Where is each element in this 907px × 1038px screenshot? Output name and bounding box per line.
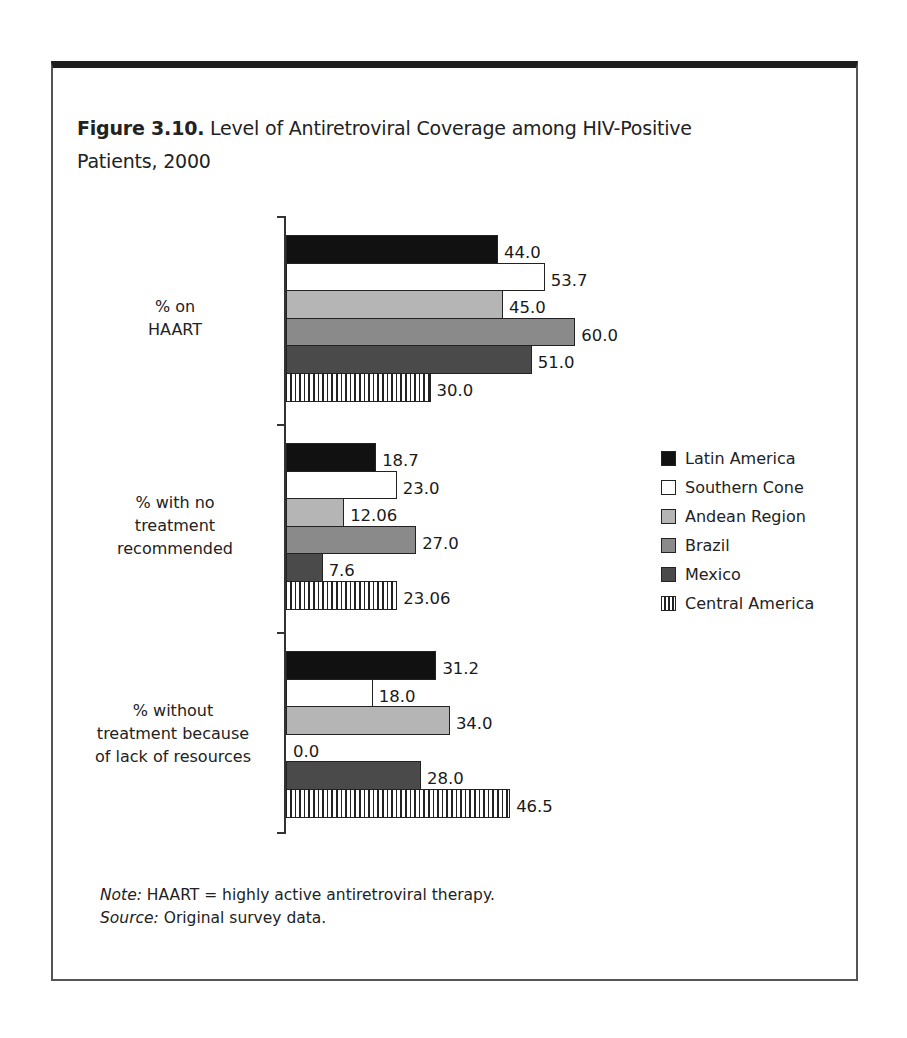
bar-southern-cone bbox=[286, 679, 373, 708]
figure-title-line2: Patients, 2000 bbox=[77, 150, 211, 172]
bar-central-america bbox=[286, 373, 431, 402]
category-label-line: recommended bbox=[80, 537, 270, 560]
data-label: 23.0 bbox=[403, 479, 440, 499]
legend-label: Brazil bbox=[685, 536, 730, 555]
bar-brazil bbox=[286, 526, 416, 555]
source-text: Original survey data. bbox=[159, 909, 326, 927]
legend-swatch-icon bbox=[661, 509, 676, 524]
category-label: % with notreatmentrecommended bbox=[80, 491, 270, 560]
source-label: Source: bbox=[100, 909, 159, 927]
data-label: 0.0 bbox=[293, 742, 319, 762]
data-label: 45.0 bbox=[509, 298, 546, 318]
bar-latin-america bbox=[286, 651, 436, 680]
data-label: 31.2 bbox=[442, 659, 479, 679]
category-label: % onHAART bbox=[80, 295, 270, 341]
legend-label: Central America bbox=[685, 594, 814, 613]
data-label: 34.0 bbox=[456, 714, 493, 734]
legend-item: Latin America bbox=[661, 444, 814, 473]
bar-latin-america bbox=[286, 443, 376, 472]
data-label: 44.0 bbox=[504, 243, 541, 263]
legend: Latin AmericaSouthern ConeAndean RegionB… bbox=[661, 444, 814, 618]
category-label-line: HAART bbox=[80, 318, 270, 341]
data-label: 18.0 bbox=[379, 687, 416, 707]
legend-item: Brazil bbox=[661, 531, 814, 560]
bar-andean-region bbox=[286, 706, 450, 735]
legend-swatch-icon bbox=[661, 596, 676, 611]
bar-central-america bbox=[286, 789, 510, 818]
note-label: Note: bbox=[100, 886, 142, 904]
axis-tick bbox=[277, 424, 285, 426]
data-label: 18.7 bbox=[382, 451, 419, 471]
legend-item: Andean Region bbox=[661, 502, 814, 531]
legend-item: Mexico bbox=[661, 560, 814, 589]
bar-southern-cone bbox=[286, 471, 397, 500]
data-label: 51.0 bbox=[538, 353, 575, 373]
category-label-line: % on bbox=[80, 295, 270, 318]
legend-swatch-icon bbox=[661, 451, 676, 466]
figure-note: Note: HAART = highly active antiretrovir… bbox=[100, 884, 495, 930]
data-label: 27.0 bbox=[422, 534, 459, 554]
data-label: 12.06 bbox=[350, 506, 397, 526]
axis-tick bbox=[277, 632, 285, 634]
legend-swatch-icon bbox=[661, 538, 676, 553]
legend-item: Southern Cone bbox=[661, 473, 814, 502]
bar-mexico bbox=[286, 345, 532, 374]
figure-number: Figure 3.10. bbox=[77, 117, 204, 139]
figure-title-text: Level of Antiretroviral Coverage among H… bbox=[204, 117, 692, 139]
legend-label: Mexico bbox=[685, 565, 741, 584]
data-label: 23.06 bbox=[403, 589, 450, 609]
bar-central-america bbox=[286, 581, 397, 610]
axis-tick bbox=[277, 216, 285, 218]
data-label: 46.5 bbox=[516, 797, 553, 817]
legend-label: Latin America bbox=[685, 449, 796, 468]
data-label: 60.0 bbox=[581, 326, 618, 346]
figure-title: Figure 3.10. Level of Antiretroviral Cov… bbox=[77, 112, 797, 178]
category-label: % withouttreatment becauseof lack of res… bbox=[78, 699, 268, 768]
bar-brazil bbox=[286, 318, 575, 347]
data-label: 7.6 bbox=[329, 561, 355, 581]
bar-mexico bbox=[286, 761, 421, 790]
category-label-line: treatment because bbox=[78, 722, 268, 745]
bar-andean-region bbox=[286, 498, 344, 527]
legend-label: Southern Cone bbox=[685, 478, 804, 497]
legend-label: Andean Region bbox=[685, 507, 806, 526]
bar-latin-america bbox=[286, 235, 498, 264]
data-label: 53.7 bbox=[551, 271, 588, 291]
category-label-line: % with no bbox=[80, 491, 270, 514]
legend-item: Central America bbox=[661, 589, 814, 618]
category-label-line: % without bbox=[78, 699, 268, 722]
bar-andean-region bbox=[286, 290, 503, 319]
data-label: 28.0 bbox=[427, 769, 464, 789]
category-label-line: treatment bbox=[80, 514, 270, 537]
data-label: 30.0 bbox=[437, 381, 474, 401]
axis-tick bbox=[277, 832, 285, 834]
legend-swatch-icon bbox=[661, 567, 676, 582]
legend-swatch-icon bbox=[661, 480, 676, 495]
bar-southern-cone bbox=[286, 263, 545, 292]
bar-mexico bbox=[286, 553, 323, 582]
note-text: HAART = highly active antiretroviral the… bbox=[142, 886, 495, 904]
category-label-line: of lack of resources bbox=[78, 745, 268, 768]
